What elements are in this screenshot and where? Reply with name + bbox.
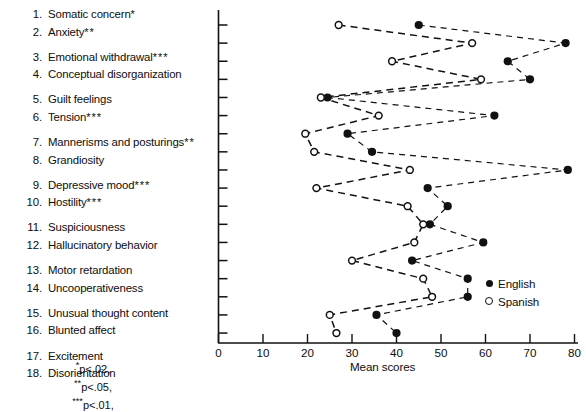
data-point-spanish <box>429 293 436 300</box>
data-point-english <box>372 311 380 319</box>
x-axis-tick-label: 40 <box>384 346 410 359</box>
data-point-english <box>564 166 572 174</box>
x-axis-tick-label: 60 <box>473 346 499 359</box>
x-axis-tick-label: 80 <box>562 346 586 359</box>
x-axis-title: Mean scores <box>350 360 415 373</box>
data-point-spanish <box>317 94 324 101</box>
legend-marker-swatch <box>485 297 493 305</box>
legend-marker-swatch <box>486 280 493 287</box>
data-point-spanish <box>302 130 309 137</box>
y-axis-ticks <box>219 25 228 333</box>
data-point-english <box>526 75 534 83</box>
legend-entry: English <box>480 275 539 293</box>
data-point-english <box>392 329 400 337</box>
data-point-spanish <box>420 221 427 228</box>
data-point-english <box>490 112 498 120</box>
data-point-english <box>368 148 376 156</box>
series-line-spanish <box>305 25 481 333</box>
data-point-spanish <box>333 330 340 337</box>
data-point-english <box>504 57 512 65</box>
open-circle-icon <box>480 297 498 305</box>
data-point-english <box>408 256 416 264</box>
data-point-spanish <box>326 312 333 319</box>
data-point-spanish <box>311 148 318 155</box>
filled-circle-icon <box>480 280 498 287</box>
data-point-english <box>479 238 487 246</box>
x-axis-tick-label: 10 <box>250 346 276 359</box>
x-axis-tick-label: 0 <box>206 346 232 359</box>
data-point-spanish <box>313 185 320 192</box>
data-point-spanish <box>375 112 382 119</box>
x-axis-tick-label: 20 <box>295 346 321 359</box>
data-point-english <box>562 39 570 47</box>
chart-legend: EnglishSpanish <box>480 275 539 310</box>
data-point-spanish <box>420 275 427 282</box>
legend-entry: Spanish <box>480 293 539 311</box>
legend-label: English <box>498 275 535 293</box>
data-point-english <box>343 130 351 138</box>
data-point-spanish <box>406 167 413 174</box>
data-point-english <box>464 293 472 301</box>
data-point-english <box>444 202 452 210</box>
data-point-spanish <box>478 76 485 83</box>
data-point-english <box>424 184 432 192</box>
x-axis-tick-label: 70 <box>517 346 543 359</box>
data-point-spanish <box>469 40 476 47</box>
data-point-spanish <box>411 239 418 246</box>
x-axis-tick-label: 30 <box>339 346 365 359</box>
data-point-spanish <box>404 203 411 210</box>
x-axis-tick-label: 50 <box>428 346 454 359</box>
data-point-spanish <box>349 257 356 264</box>
data-point-english <box>464 275 472 283</box>
data-point-spanish <box>335 22 342 29</box>
data-point-english <box>415 21 423 29</box>
legend-label: Spanish <box>498 293 539 311</box>
data-point-spanish <box>389 58 396 65</box>
